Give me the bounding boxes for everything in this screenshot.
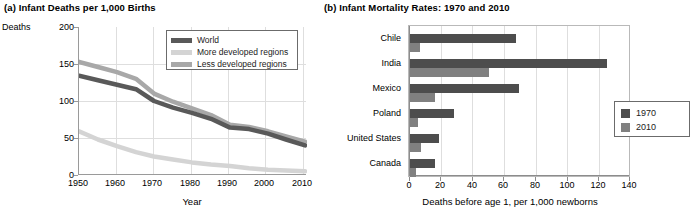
legend-item-less-developed-regions: Less developed regions <box>171 58 293 70</box>
x-tick-1970: 1970 <box>135 178 169 188</box>
bar-india-2010 <box>410 68 489 77</box>
gridline-v-40 <box>472 26 473 176</box>
bar-united-states-2010 <box>410 143 421 152</box>
gridline-v-20 <box>441 26 442 176</box>
y-tick-150: 150 <box>44 59 74 69</box>
line-more-developed-regions <box>79 131 305 171</box>
legend-item-2010: 2010 <box>621 120 689 134</box>
legend-swatch-more-developed-regions <box>171 50 192 55</box>
panel-b-plot-area: 1970 2010 <box>408 25 630 177</box>
panel-b-bar-chart: (b) Infant Mortality Rates: 1970 and 201… <box>320 0 639 221</box>
category-label-united-states: United States <box>347 133 401 143</box>
legend-label-2010: 2010 <box>636 122 656 132</box>
legend-label-less-developed-regions: Less developed regions <box>197 59 287 69</box>
bar-mexico-1970 <box>410 84 519 93</box>
bar-chile-1970 <box>410 34 516 43</box>
gridline-v-120 <box>599 26 600 176</box>
x-tick-40: 40 <box>457 180 487 190</box>
x-tick-1990: 1990 <box>210 178 244 188</box>
bar-india-1970 <box>410 59 607 68</box>
bar-united-states-1970 <box>410 134 439 143</box>
category-label-poland: Poland <box>373 108 401 118</box>
bar-poland-1970 <box>410 109 454 118</box>
y-tick-50: 50 <box>44 133 74 143</box>
x-tick-20: 20 <box>425 180 455 190</box>
category-label-canada: Canada <box>369 158 401 168</box>
panel-a-line-chart: (a) Infant Deaths per 1,000 Births Death… <box>0 0 320 221</box>
gridline-v-80 <box>536 26 537 176</box>
x-tick-2000: 2000 <box>247 178 281 188</box>
panel-a-x-axis-label: Year <box>78 196 306 207</box>
legend-item-world: World <box>171 34 293 46</box>
y-tick-100: 100 <box>44 96 74 106</box>
x-tick-1960: 1960 <box>98 178 132 188</box>
x-tick-60: 60 <box>488 180 518 190</box>
line-less-developed-regions <box>79 62 305 142</box>
y-tickmark-0 <box>74 175 78 176</box>
legend-item-1970: 1970 <box>621 106 689 120</box>
panel-b-x-axis-label: Deaths before age 1, per 1,000 newborns <box>380 196 640 207</box>
bar-chile-2010 <box>410 43 420 52</box>
gridline-v-60 <box>504 26 505 176</box>
gridline-v-100 <box>567 26 568 176</box>
x-tick-2010: 2010 <box>285 178 319 188</box>
legend-swatch-1970 <box>621 109 630 118</box>
y-tick-200: 200 <box>44 22 74 32</box>
legend-swatch-2010 <box>621 123 630 132</box>
x-axis-line <box>409 175 629 176</box>
legend-swatch-less-developed-regions <box>171 62 192 67</box>
panel-b-legend: 1970 2010 <box>614 101 690 137</box>
panel-a-y-axis-label: Deaths <box>2 22 31 32</box>
x-tick-120: 120 <box>583 180 613 190</box>
category-label-mexico: Mexico <box>372 83 401 93</box>
x-tick-0: 0 <box>394 180 424 190</box>
bar-poland-2010 <box>410 118 418 127</box>
x-tick-140: 140 <box>614 180 644 190</box>
legend-swatch-world <box>171 38 192 43</box>
x-tick-1950: 1950 <box>61 178 95 188</box>
x-tick-80: 80 <box>520 180 550 190</box>
x-tick-1980: 1980 <box>173 178 207 188</box>
panel-a-title: (a) Infant Deaths per 1,000 Births <box>4 2 156 13</box>
category-label-india: India <box>381 58 401 68</box>
line-world <box>79 76 305 146</box>
panel-b-title: (b) Infant Mortality Rates: 1970 and 201… <box>324 2 510 13</box>
bar-mexico-2010 <box>410 93 435 102</box>
category-label-chile: Chile <box>380 33 401 43</box>
x-tick-100: 100 <box>552 180 582 190</box>
legend-item-more-developed-regions: More developed regions <box>171 46 293 58</box>
bar-canada-1970 <box>410 159 435 168</box>
bar-canada-2010 <box>410 168 416 177</box>
panel-a-legend: World More developed regions Less develo… <box>166 30 298 70</box>
legend-label-1970: 1970 <box>636 108 656 118</box>
legend-label-world: World <box>197 35 219 45</box>
legend-label-more-developed-regions: More developed regions <box>197 47 288 57</box>
